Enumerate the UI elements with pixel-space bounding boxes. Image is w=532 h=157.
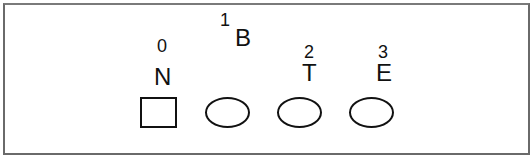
node-1-letter: B [235, 26, 251, 50]
node-0-index: 0 [157, 37, 167, 55]
node-1-ellipse [205, 97, 250, 128]
node-0-square [140, 97, 177, 128]
node-3-letter: E [376, 61, 392, 85]
node-0-letter: N [154, 65, 171, 89]
node-2-letter: T [302, 61, 317, 85]
diagram-frame [3, 3, 530, 155]
node-1-index: 1 [220, 11, 230, 29]
node-2-ellipse [277, 97, 322, 128]
node-3-ellipse [349, 97, 394, 128]
